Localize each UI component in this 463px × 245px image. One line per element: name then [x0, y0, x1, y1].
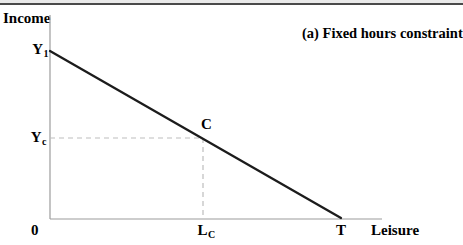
budget-constraint-line	[50, 51, 341, 218]
label-y1-base: Y	[32, 41, 43, 57]
label-yc-base: Y	[31, 129, 42, 145]
label-yc: Yc	[24, 130, 46, 145]
label-point-c: C	[201, 117, 212, 132]
plot-canvas	[0, 0, 463, 245]
origin-label: 0	[31, 223, 39, 238]
budget-constraint-figure: Income (a) Fixed hours constraint Y1 Yc …	[0, 0, 463, 245]
label-y1: Y1	[26, 42, 48, 57]
label-t: T	[336, 223, 346, 238]
label-y1-sub: 1	[44, 48, 49, 59]
label-lc-base: L	[197, 222, 207, 238]
x-axis-title: Leisure	[371, 223, 419, 238]
label-yc-sub: c	[42, 136, 46, 147]
label-lc: LC	[195, 223, 217, 238]
label-lc-sub: C	[208, 229, 215, 240]
